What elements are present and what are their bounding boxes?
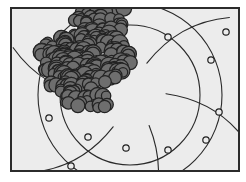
- cluster-grain: [99, 76, 112, 89]
- intersection-marker-10[interactable]: [46, 115, 52, 121]
- figure-panel: [10, 7, 240, 172]
- intersection-marker-9[interactable]: [68, 163, 74, 169]
- figure-stage: [12, 9, 238, 170]
- grid-spoke-6: [147, 126, 158, 171]
- cluster-grain: [71, 99, 85, 113]
- cluster-grain: [98, 100, 110, 112]
- intersection-marker-4[interactable]: [216, 109, 222, 115]
- intersection-marker-1[interactable]: [165, 34, 171, 40]
- figure-root: [0, 0, 246, 182]
- intersection-marker-7[interactable]: [123, 145, 129, 151]
- intersection-marker-5[interactable]: [203, 137, 209, 143]
- grid-spoke-5: [166, 94, 238, 143]
- intersection-marker-2[interactable]: [208, 57, 214, 63]
- granular-cluster: [33, 9, 137, 113]
- intersection-marker-8[interactable]: [85, 134, 91, 140]
- intersection-marker-6[interactable]: [165, 147, 171, 153]
- intersection-marker-3[interactable]: [223, 29, 229, 35]
- diagram-canvas: [12, 9, 238, 170]
